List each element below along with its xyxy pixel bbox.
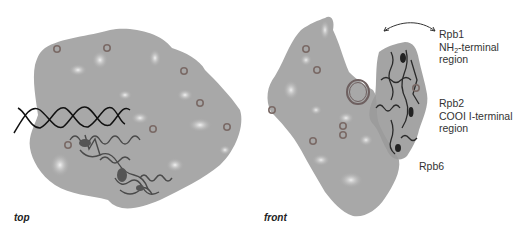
view-label-top: top [14,212,30,223]
view-label-front: front [264,212,287,223]
panel-front-view: Rpb1 NH2-terminal region Rpb2 COOI I-ter… [261,0,522,232]
annotation-rpb6: Rpb6 [419,160,444,173]
annotation-rpb2: Rpb2 COOI I-terminal region [439,97,513,135]
rpb2-title: Rpb2 [439,97,513,110]
rpb1-region: region [439,53,499,66]
rpb1-terminal: -terminal [458,41,499,53]
rpb1-title: Rpb1 [439,28,499,41]
top-view-illustration [0,0,261,232]
rpb1-nh: NH [439,41,454,53]
rpb2-region: region [439,122,513,135]
panel-top-view: top [0,0,261,232]
rpb2-subtitle: COOI I-terminal [439,110,513,123]
rotation-arrow-icon [384,23,435,31]
annotation-rpb1: Rpb1 NH2-terminal region [439,28,499,66]
rpb1-subtitle: NH2-terminal [439,41,499,54]
rpb6-title: Rpb6 [419,160,444,173]
